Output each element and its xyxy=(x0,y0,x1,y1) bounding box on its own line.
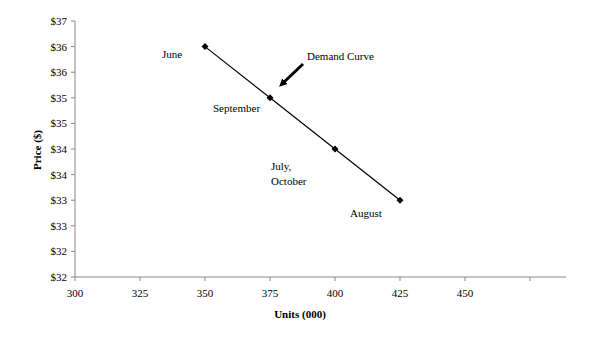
x-axis-title: Units (000) xyxy=(274,308,326,321)
annotation-september: September xyxy=(213,102,260,114)
y-tick-label: $37 xyxy=(51,15,68,27)
arrow-icon xyxy=(282,64,303,84)
y-tick-label: $33 xyxy=(51,220,68,232)
x-tick-label: 450 xyxy=(457,287,474,299)
demand-curve-chart: $37$36$36$35$35$34$34$33$33$32$32 300325… xyxy=(0,0,596,338)
y-tick-label: $34 xyxy=(51,143,68,155)
annotation-july: July, xyxy=(271,160,292,172)
x-tick-label: 350 xyxy=(197,287,214,299)
y-tick-label: $36 xyxy=(51,66,68,78)
annotation-august: August xyxy=(350,207,382,219)
y-axis-title: Price ($) xyxy=(31,130,44,170)
x-tick-label: 325 xyxy=(132,287,149,299)
y-tick-label: $32 xyxy=(51,245,68,257)
y-tick-label: $33 xyxy=(51,194,68,206)
x-axis: 300325350375400425450 xyxy=(67,277,566,299)
y-tick-label: $35 xyxy=(51,117,68,129)
y-tick-label: $32 xyxy=(51,271,68,283)
x-tick-label: 400 xyxy=(327,287,344,299)
y-tick-label: $36 xyxy=(51,41,68,53)
y-axis: $37$36$36$35$35$34$34$33$33$32$32 xyxy=(51,15,76,283)
annotation-october: October xyxy=(271,175,307,187)
x-tick-label: 375 xyxy=(262,287,279,299)
x-tick-label: 425 xyxy=(392,287,409,299)
y-tick-label: $35 xyxy=(51,92,68,104)
annotation-demand-curve: Demand Curve xyxy=(307,50,374,62)
annotation-june: June xyxy=(162,48,182,60)
y-tick-label: $34 xyxy=(51,169,68,181)
x-tick-label: 300 xyxy=(67,287,84,299)
